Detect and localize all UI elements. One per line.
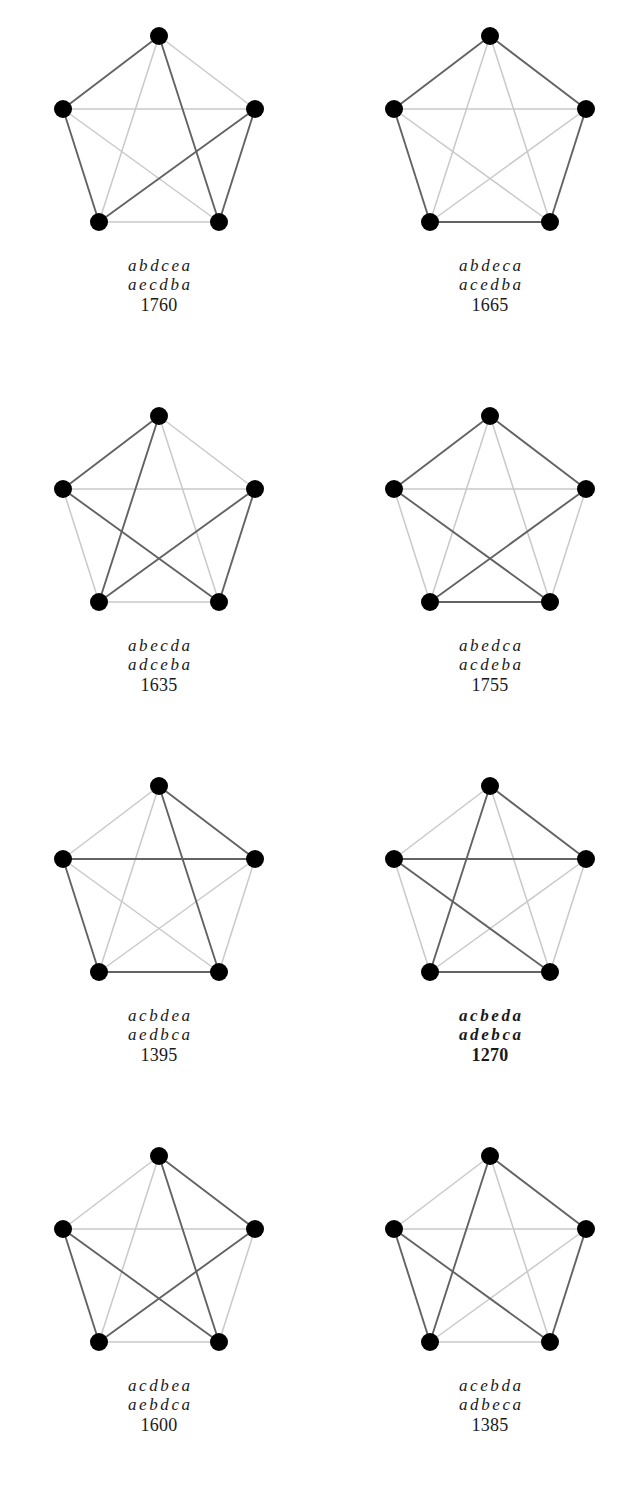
tour-edge xyxy=(394,1229,430,1342)
tour-cost: 1395 xyxy=(125,1045,192,1065)
tour-sequence: acbeda xyxy=(456,1006,523,1025)
graph-canvas xyxy=(41,764,277,1004)
tour-edge xyxy=(219,109,255,222)
graph-vertex-a xyxy=(481,777,499,795)
graph-edge xyxy=(219,859,255,972)
graph-vertex-b xyxy=(54,850,72,868)
graph-edge xyxy=(63,109,219,222)
tour-edge xyxy=(63,489,219,602)
reverse-tour-sequence: adceba xyxy=(125,655,192,674)
tour-panel: abecdaadceba1635 xyxy=(0,380,318,750)
tour-edge xyxy=(99,416,159,602)
tour-edge xyxy=(99,109,255,222)
tour-edge xyxy=(394,489,550,602)
reverse-tour-sequence: aedbca xyxy=(125,1025,192,1044)
graph-edge xyxy=(394,109,550,222)
graph-vertex-c xyxy=(577,100,595,118)
tour-figure-grid: abdceaaecdba1760abdecaacedba1665abecdaad… xyxy=(0,0,636,1497)
graph-canvas xyxy=(372,14,608,254)
tour-edge xyxy=(99,1229,255,1342)
graph-edge xyxy=(490,1156,550,1342)
tour-edge xyxy=(394,416,490,489)
panel-caption: acdbeaaebdca1600 xyxy=(125,1376,192,1435)
graph-vertex-e xyxy=(210,1333,228,1351)
tour-panel: abdecaacedba1665 xyxy=(318,0,636,380)
reverse-tour-sequence: aebdca xyxy=(125,1395,192,1414)
tour-cost: 1760 xyxy=(125,295,192,315)
tour-edge xyxy=(159,36,219,222)
tour-edge xyxy=(63,416,159,489)
tour-panel: acbedaadebca1270 xyxy=(318,750,636,1120)
panel-caption: abdceaaecdba1760 xyxy=(125,256,192,315)
graph-edge xyxy=(63,1156,159,1229)
graph-edge xyxy=(63,859,219,972)
graph-edge xyxy=(430,109,586,222)
tour-cost: 1385 xyxy=(456,1415,523,1435)
tour-panel: acebdaadbeca1385 xyxy=(318,1120,636,1497)
graph-vertex-b xyxy=(54,480,72,498)
graph-canvas xyxy=(372,1134,608,1374)
tour-edge xyxy=(394,1229,550,1342)
tour-sequence: acdbea xyxy=(125,1376,192,1395)
graph-vertex-b xyxy=(385,100,403,118)
graph-edge xyxy=(550,489,586,602)
graph-vertex-e xyxy=(541,1333,559,1351)
graph-k5 xyxy=(372,394,608,634)
graph-k5 xyxy=(372,764,608,1004)
tour-edge xyxy=(63,1229,99,1342)
panel-caption: acbdeaaedbca1395 xyxy=(125,1006,192,1065)
graph-vertex-e xyxy=(210,963,228,981)
graph-edge xyxy=(159,416,219,602)
graph-edge xyxy=(63,786,159,859)
graph-k5 xyxy=(41,764,277,1004)
tour-edge xyxy=(159,1156,219,1342)
reverse-tour-sequence: acdeba xyxy=(456,655,523,674)
graph-vertex-d xyxy=(90,593,108,611)
tour-cost: 1635 xyxy=(125,675,192,695)
graph-vertex-d xyxy=(90,1333,108,1351)
reverse-tour-sequence: acedba xyxy=(456,275,523,294)
tour-edge xyxy=(63,859,99,972)
graph-edge xyxy=(490,786,550,972)
tour-panel: acdbeaaebdca1600 xyxy=(0,1120,318,1497)
graph-k5 xyxy=(41,1134,277,1374)
graph-vertex-c xyxy=(577,480,595,498)
graph-edge xyxy=(159,36,255,109)
graph-edge xyxy=(219,1229,255,1342)
tour-edge xyxy=(63,109,99,222)
graph-k5 xyxy=(41,14,277,254)
reverse-tour-sequence: adebca xyxy=(456,1025,523,1044)
graph-edge xyxy=(490,416,550,602)
graph-vertex-d xyxy=(421,1333,439,1351)
graph-vertex-b xyxy=(54,100,72,118)
reverse-tour-sequence: adbeca xyxy=(456,1395,523,1414)
graph-vertex-b xyxy=(385,480,403,498)
panel-caption: abecdaadceba1635 xyxy=(125,636,192,695)
graph-vertex-b xyxy=(385,1220,403,1238)
tour-cost: 1270 xyxy=(456,1045,523,1065)
tour-edge xyxy=(490,416,586,489)
graph-vertex-a xyxy=(150,27,168,45)
tour-edge xyxy=(430,1156,490,1342)
tour-sequence: abedca xyxy=(456,636,523,655)
tour-cost: 1665 xyxy=(456,295,523,315)
graph-vertex-c xyxy=(246,480,264,498)
graph-vertex-e xyxy=(541,593,559,611)
tour-edge xyxy=(63,1229,219,1342)
tour-edge xyxy=(430,786,490,972)
tour-panel: acbdeaaedbca1395 xyxy=(0,750,318,1120)
tour-edge xyxy=(159,786,255,859)
tour-cost: 1755 xyxy=(456,675,523,695)
graph-edge xyxy=(430,1229,586,1342)
graph-edge xyxy=(394,489,430,602)
graph-vertex-a xyxy=(150,777,168,795)
graph-k5 xyxy=(41,394,277,634)
tour-edge xyxy=(394,36,490,109)
graph-k5 xyxy=(372,1134,608,1374)
tour-edge xyxy=(490,786,586,859)
tour-edge xyxy=(394,859,550,972)
tour-sequence: abecda xyxy=(125,636,192,655)
graph-vertex-c xyxy=(246,100,264,118)
graph-vertex-c xyxy=(577,1220,595,1238)
tour-panel: abedcaacdeba1755 xyxy=(318,380,636,750)
